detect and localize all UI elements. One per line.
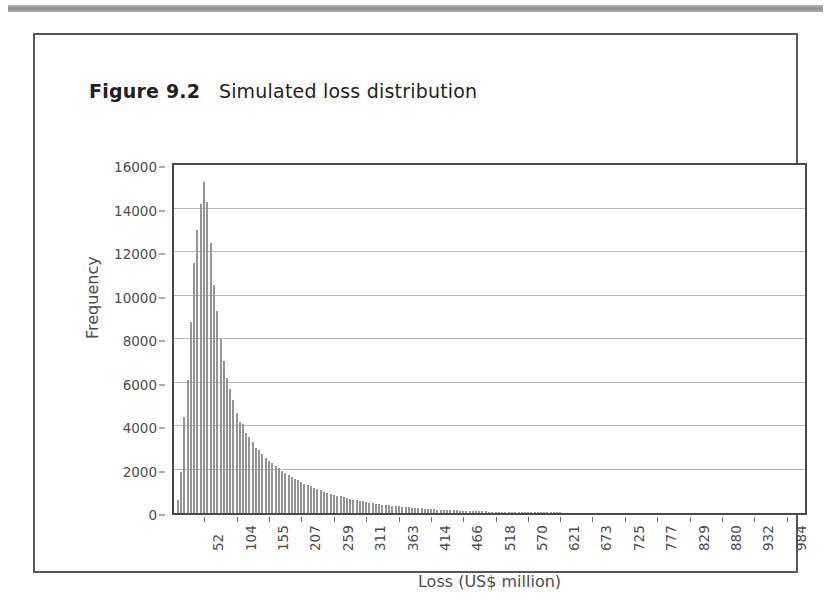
y-tick-mark: [159, 341, 165, 342]
x-tick-label: 880: [728, 525, 744, 551]
histogram-bar: [475, 511, 477, 513]
histogram-bar: [275, 466, 277, 513]
histogram-bar: [495, 512, 497, 513]
y-tick-label: 6000: [123, 377, 157, 393]
x-axis-tick-labels: 5210415520725931136341446651857062167372…: [172, 517, 807, 572]
x-tick-mark: [237, 517, 238, 522]
histogram-bar: [378, 504, 380, 513]
y-tick-mark: [159, 428, 165, 429]
histogram-bar: [469, 511, 471, 513]
histogram-bar: [320, 490, 322, 513]
histogram-bar: [245, 433, 247, 513]
y-tick-label: 12000: [114, 246, 157, 262]
histogram-bar: [236, 413, 238, 513]
histogram-bar: [323, 492, 325, 513]
histogram-bar: [449, 510, 451, 513]
plot-area: [172, 163, 807, 515]
histogram-bar: [411, 508, 413, 513]
histogram-bar: [278, 468, 280, 513]
histogram-bar: [346, 498, 348, 513]
y-tick-mark: [159, 297, 165, 298]
histogram-bar: [316, 489, 318, 513]
histogram-bar: [213, 285, 215, 513]
histogram-bar: [284, 473, 286, 513]
histogram-bar: [456, 510, 458, 513]
histogram-bar: [210, 243, 212, 513]
histogram-bar: [395, 506, 397, 513]
histogram-bar: [443, 510, 445, 513]
histogram-bar: [527, 512, 529, 513]
figure-caption-label: Figure 9.2: [89, 80, 200, 102]
histogram-bar: [271, 463, 273, 513]
histogram-bar: [183, 417, 185, 513]
y-tick-mark: [159, 254, 165, 255]
histogram-bar: [216, 311, 218, 513]
histogram-bar: [498, 512, 500, 513]
histogram-bar: [291, 477, 293, 513]
histogram-bar: [459, 511, 461, 513]
histogram-bar: [242, 424, 244, 513]
histogram-bar: [248, 437, 250, 513]
histogram-bar: [414, 508, 416, 513]
histogram-bar: [391, 506, 393, 513]
x-tick-mark: [301, 517, 302, 522]
y-tick-mark: [159, 515, 165, 516]
histogram-bar: [462, 511, 464, 513]
histogram-bar: [190, 322, 192, 513]
x-tick-label: 104: [243, 525, 259, 551]
histogram-bar: [187, 380, 189, 513]
histogram-bar: [481, 511, 483, 513]
histogram-bar: [398, 506, 400, 513]
histogram-bar: [405, 507, 407, 513]
x-tick-mark: [690, 517, 691, 522]
histogram-bar: [388, 505, 390, 513]
histogram-bars: [174, 165, 805, 513]
histogram-bar: [220, 339, 222, 513]
x-tick-mark: [496, 517, 497, 522]
y-tick-label: 14000: [114, 203, 157, 219]
histogram-bar: [365, 502, 367, 513]
histogram-bar: [556, 512, 558, 513]
gridline: [174, 338, 805, 339]
x-tick-mark: [204, 517, 205, 522]
x-tick-label: 155: [275, 525, 291, 551]
y-tick-mark: [159, 471, 165, 472]
y-tick-label: 4000: [123, 420, 157, 436]
histogram-bar: [359, 501, 361, 513]
x-tick-label: 466: [469, 525, 485, 551]
histogram-bar: [537, 512, 539, 513]
figure-caption: Figure 9.2 Simulated loss distribution: [89, 80, 477, 102]
y-tick-mark: [159, 167, 165, 168]
histogram-bar: [196, 230, 198, 513]
histogram-bar: [417, 508, 419, 513]
histogram-bar: [203, 182, 205, 513]
x-tick-label: 621: [566, 525, 582, 551]
gridline: [174, 208, 805, 209]
histogram-bar: [453, 510, 455, 513]
x-tick-label: 725: [631, 525, 647, 551]
figure-caption-title: Simulated loss distribution: [219, 80, 477, 102]
x-tick-label: 414: [437, 525, 453, 551]
histogram-bar: [229, 389, 231, 513]
histogram-bar: [385, 505, 387, 513]
histogram-bar: [330, 494, 332, 513]
x-tick-mark: [528, 517, 529, 522]
histogram-bar: [206, 202, 208, 513]
histogram-bar: [440, 510, 442, 513]
histogram-bar: [433, 509, 435, 513]
histogram-bar: [294, 479, 296, 513]
histogram-bar: [252, 442, 254, 513]
histogram-bar: [465, 511, 467, 513]
histogram-bar: [297, 480, 299, 513]
figure-frame: Figure 9.2 Simulated loss distribution F…: [33, 33, 798, 573]
histogram-bar: [372, 503, 374, 513]
y-tick-label: 10000: [114, 290, 157, 306]
histogram-bar: [424, 509, 426, 513]
x-tick-label: 207: [307, 525, 323, 551]
y-tick-label: 2000: [123, 464, 157, 480]
histogram-bar: [446, 510, 448, 513]
histogram-bar: [356, 500, 358, 513]
x-tick-mark: [722, 517, 723, 522]
top-decorative-rule: [8, 5, 823, 12]
y-tick-label: 16000: [114, 159, 157, 175]
